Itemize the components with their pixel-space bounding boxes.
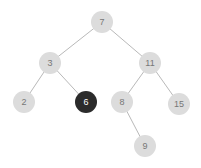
tree-node-label: 11 [145, 59, 154, 68]
tree-node-15[interactable]: 15 [168, 93, 190, 115]
tree-node-2[interactable]: 2 [13, 91, 35, 113]
tree-node-label: 9 [142, 142, 147, 151]
binary-tree-diagram: 7311268159 [0, 0, 201, 168]
tree-node-11[interactable]: 11 [139, 52, 161, 74]
tree-node-label: 6 [83, 98, 88, 107]
tree-node-8[interactable]: 8 [111, 91, 133, 113]
tree-node-label: 15 [174, 100, 184, 109]
tree-node-label: 7 [99, 18, 104, 27]
tree-node-9[interactable]: 9 [134, 135, 156, 157]
tree-node-layer: 7311268159 [0, 0, 201, 168]
tree-node-3[interactable]: 3 [39, 52, 61, 74]
tree-node-label: 8 [119, 98, 124, 107]
tree-node-label: 2 [21, 98, 26, 107]
tree-node-7[interactable]: 7 [91, 11, 113, 33]
tree-node-6[interactable]: 6 [75, 91, 97, 113]
tree-node-label: 3 [47, 59, 52, 68]
